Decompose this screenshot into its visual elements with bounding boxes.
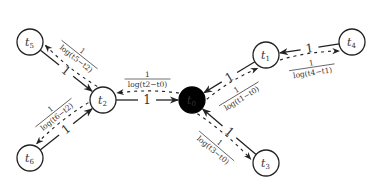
- edge-segment: [318, 44, 339, 47]
- node-t1: t1: [253, 42, 279, 68]
- fraction-denominator: log(t3−t0): [195, 134, 231, 166]
- node-t3: t3: [253, 150, 279, 176]
- fraction-label: 1log(t4−t1): [288, 55, 336, 81]
- node-t0: t0: [179, 87, 205, 113]
- node-t4: t4: [339, 29, 365, 55]
- edge-weight-label: 1: [305, 41, 315, 56]
- edge-weight-label: 1: [143, 93, 151, 107]
- fraction-denominator: log(t2−t0): [128, 80, 167, 89]
- fraction-numerator: 1: [308, 58, 314, 68]
- node-t6: t6: [17, 145, 43, 171]
- edge-arrow: [203, 109, 223, 126]
- edge-weight-label: 1: [59, 121, 74, 137]
- edge-weight-label: 1: [59, 63, 74, 79]
- fraction-denominator: log(t4−t1): [292, 65, 332, 80]
- fraction-label: 1log(t2−t0): [125, 70, 171, 89]
- node-t5: t5: [17, 29, 43, 55]
- graph-diagram: 1111111log(t1−t0)1log(t2−t0)1log(t3−t0)1…: [0, 0, 380, 187]
- edge-arrow: [204, 82, 222, 93]
- edge-arrow: [73, 76, 92, 91]
- edge-arrow: [280, 50, 301, 53]
- edge-segment: [237, 62, 255, 73]
- edge-weight-label: 1: [223, 69, 237, 85]
- node-t2: t2: [90, 87, 116, 113]
- edge-weight-label: 1: [222, 124, 237, 140]
- edge-segment: [236, 138, 256, 155]
- fraction-numerator: 1: [145, 70, 150, 79]
- fraction-denominator: log(t1−t0): [223, 84, 261, 112]
- fraction-label: 1log(t1−t0): [215, 74, 264, 114]
- edge-segment: [40, 50, 59, 65]
